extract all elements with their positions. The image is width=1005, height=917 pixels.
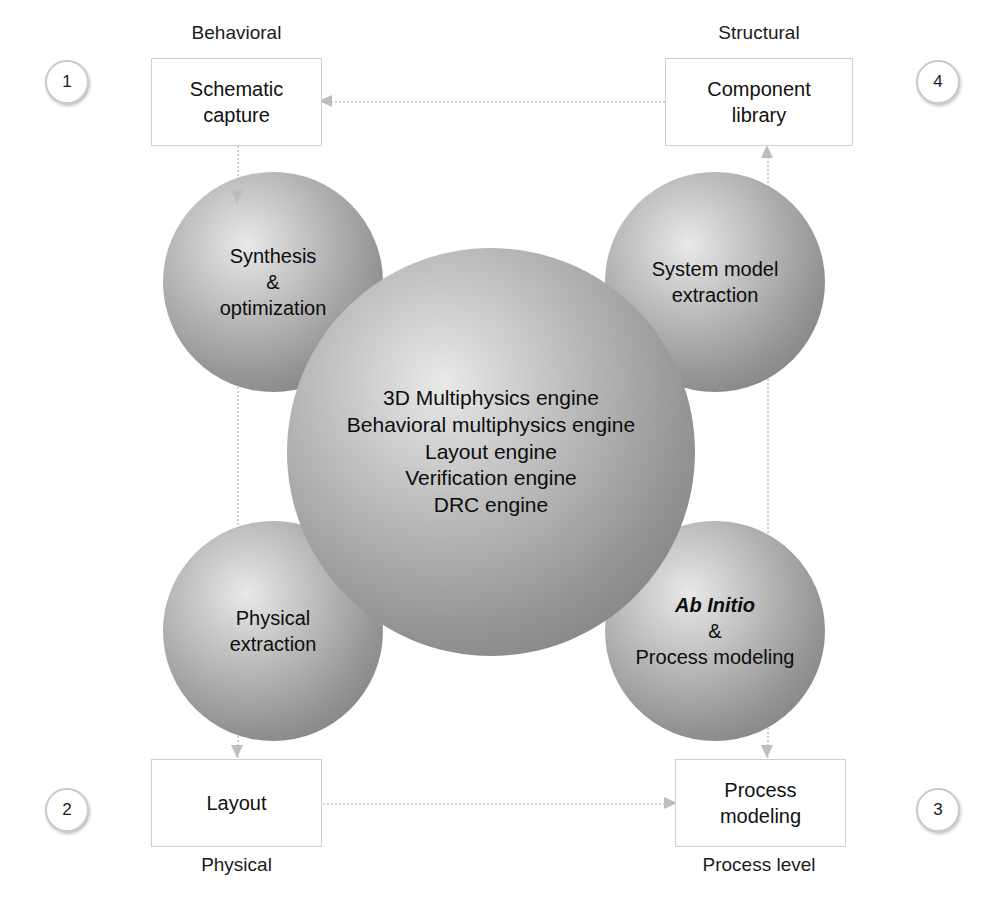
satellite-line-ab-initio: Ab Initio xyxy=(636,592,795,618)
box-schematic-capture-line2: capture xyxy=(190,102,283,128)
box-layout-line1: Layout xyxy=(206,790,266,816)
zone-caption-physical: Physical xyxy=(151,854,322,876)
index-marker-3: 3 xyxy=(916,788,960,832)
satellite-line-optimization: optimization xyxy=(220,295,327,321)
arrowhead-down-to-synthesis-sphere xyxy=(231,190,243,203)
core-line-behavioral-multiphysics-engine: Behavioral multiphysics engine xyxy=(347,412,635,439)
satellite-line-physical: Physical xyxy=(230,605,317,631)
diagram-canvas: Behavioral Structural Physical Process l… xyxy=(0,0,1005,917)
satellite-line-system-model: System model xyxy=(652,256,779,282)
core-line-layout-engine: Layout engine xyxy=(347,439,635,466)
box-process-modeling[interactable]: Process modeling xyxy=(675,759,846,847)
box-process-modeling-label: Process modeling xyxy=(720,777,801,830)
satellite-line-ampersand-left: & xyxy=(220,269,327,295)
arrowhead-down-to-process-modeling-box xyxy=(761,745,773,758)
box-schematic-capture-label: Schematic capture xyxy=(190,76,283,129)
index-marker-1: 1 xyxy=(45,60,89,104)
core-line-drc-engine: DRC engine xyxy=(347,492,635,519)
core-line-3d-multiphysics-engine: 3D Multiphysics engine xyxy=(347,385,635,412)
sphere-synthesis-optimization-label: Synthesis & optimization xyxy=(214,243,333,321)
box-process-modeling-line2: modeling xyxy=(720,803,801,829)
zone-caption-behavioral: Behavioral xyxy=(151,22,322,44)
index-marker-3-label: 3 xyxy=(933,800,942,820)
sphere-physical-extraction-label: Physical extraction xyxy=(224,605,323,657)
satellite-line-extraction-top-right: extraction xyxy=(652,282,779,308)
zone-caption-structural: Structural xyxy=(665,22,853,44)
box-layout-label: Layout xyxy=(206,790,266,816)
index-marker-4-label: 4 xyxy=(933,72,942,92)
zone-caption-process-level: Process level xyxy=(665,854,853,876)
sphere-system-model-extraction-label: System model extraction xyxy=(646,256,785,308)
satellite-line-process-modeling: Process modeling xyxy=(636,644,795,670)
arrowhead-down-to-layout-box xyxy=(231,745,243,758)
box-component-library-label: Component library xyxy=(707,76,810,129)
satellite-line-ampersand-right: & xyxy=(636,618,795,644)
box-component-library[interactable]: Component library xyxy=(665,58,853,146)
connector-line-layout-to-process-modeling xyxy=(323,803,665,805)
connector-line-library-to-schematic xyxy=(331,101,665,103)
core-line-verification-engine: Verification engine xyxy=(347,465,635,492)
sphere-ab-initio-process-modeling-label: Ab Initio & Process modeling xyxy=(630,592,801,670)
index-marker-4: 4 xyxy=(916,60,960,104)
box-layout[interactable]: Layout xyxy=(151,759,322,847)
arrowhead-up-to-component-library xyxy=(761,145,773,158)
sphere-engine-core: 3D Multiphysics engine Behavioral multip… xyxy=(287,248,695,656)
index-marker-2: 2 xyxy=(45,788,89,832)
box-process-modeling-line1: Process xyxy=(720,777,801,803)
index-marker-1-label: 1 xyxy=(62,72,71,92)
box-component-library-line1: Component xyxy=(707,76,810,102)
box-schematic-capture-line1: Schematic xyxy=(190,76,283,102)
satellite-line-synthesis: Synthesis xyxy=(220,243,327,269)
satellite-line-extraction-bottom-left: extraction xyxy=(230,631,317,657)
index-marker-2-label: 2 xyxy=(62,800,71,820)
box-schematic-capture[interactable]: Schematic capture xyxy=(151,58,322,146)
box-component-library-line2: library xyxy=(707,102,810,128)
sphere-engine-core-label: 3D Multiphysics engine Behavioral multip… xyxy=(341,385,641,519)
